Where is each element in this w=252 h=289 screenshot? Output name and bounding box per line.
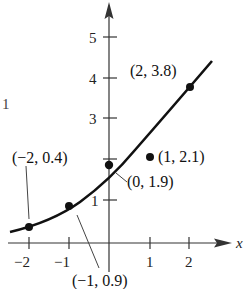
data-point: [65, 202, 73, 210]
data-point: [186, 83, 194, 91]
x-axis-label: x: [235, 235, 243, 251]
x-tick-label-1: 1: [146, 254, 154, 270]
x-tick-label-minus-1: −1: [54, 254, 70, 270]
point-label-minus-1: (−1, 0.9): [72, 272, 128, 289]
point-label-minus-2: (−2, 0.4): [12, 149, 68, 167]
chart-canvas: 5 4 3 1 −2 −1 1 2 x (−2, 0.4) (−1, 0.9) …: [0, 0, 252, 289]
data-point: [146, 153, 154, 161]
y-tick-label-5: 5: [89, 30, 97, 46]
data-point: [105, 161, 113, 169]
point-label-2: (2, 3.8): [130, 62, 177, 80]
x-tick-label-minus-2: −2: [14, 254, 30, 270]
y-tick-label-4: 4: [89, 71, 97, 87]
point-label-1: (1, 2.1): [158, 148, 205, 166]
y-tick-label-1: 1: [91, 193, 99, 209]
leader-lines: [26, 166, 127, 268]
axes: [8, 8, 222, 272]
point-label-0: (0, 1.9): [127, 173, 174, 191]
data-point: [25, 223, 33, 231]
fitted-curve: [10, 61, 212, 232]
y-tick-label-3: 3: [89, 111, 97, 127]
x-tick-label-2: 2: [185, 254, 193, 270]
